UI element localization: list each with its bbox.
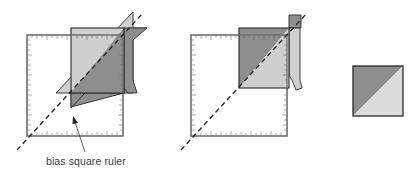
- ruler-callout-label: bias square ruler: [46, 155, 126, 167]
- trimmed-strip: [289, 15, 302, 90]
- panel-3-finished-square: [353, 66, 403, 116]
- quilting-diagram: [0, 0, 419, 175]
- panel-2: [181, 13, 307, 150]
- panel-1: [17, 12, 147, 152]
- pieced-square-1: [71, 28, 124, 93]
